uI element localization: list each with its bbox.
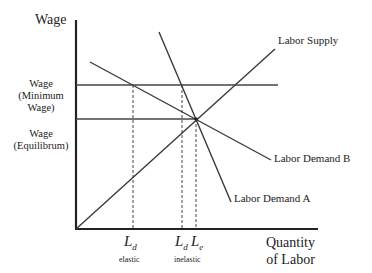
equilibrium-wage-label-line2: (Equilibrum) bbox=[8, 140, 74, 152]
ld-elastic-note: elastic bbox=[119, 255, 139, 264]
ld-elastic-sub: d bbox=[132, 242, 137, 252]
minimum-wage-label: Wage (Minimum Wage) bbox=[14, 78, 68, 114]
x-axis-title: Quantity of Labor bbox=[266, 234, 315, 268]
le-sub: e bbox=[199, 242, 203, 252]
labor-demand-a-label: Labor Demand A bbox=[234, 192, 310, 204]
equilibrium-wage-label: Wage (Equilibrum) bbox=[8, 128, 74, 152]
equilibrium-point bbox=[194, 117, 198, 121]
x-axis-title-line1: Quantity bbox=[266, 234, 315, 251]
x-axis-title-line2: of Labor bbox=[266, 251, 315, 268]
minimum-wage-label-line2: (Minimum bbox=[14, 90, 68, 102]
labor-supply-label: Labor Supply bbox=[278, 34, 338, 46]
minimum-wage-label-line3: Wage) bbox=[14, 102, 68, 114]
equilibrium-wage-label-line1: Wage bbox=[8, 128, 74, 140]
ld-inelastic-sub: d bbox=[183, 242, 188, 252]
ld-inelastic-tick: Ld bbox=[175, 233, 188, 252]
le-tick: Le bbox=[191, 233, 203, 252]
ld-elastic-tick: Ld bbox=[124, 233, 137, 252]
minimum-wage-label-line1: Wage bbox=[14, 78, 68, 90]
ld-inelastic-note: inelastic bbox=[174, 255, 201, 264]
labor-demand-a-curve bbox=[159, 32, 231, 202]
labor-demand-b-label: Labor Demand B bbox=[274, 152, 350, 164]
y-axis-title: Wage bbox=[35, 12, 67, 28]
